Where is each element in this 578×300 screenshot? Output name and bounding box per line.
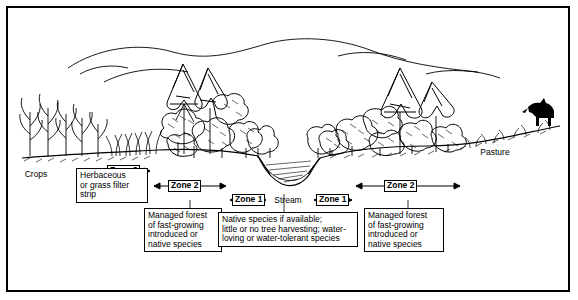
background-hills (68, 39, 500, 82)
callout-zone3-description: Herbaceous or grass filter strip (76, 168, 148, 203)
zone-marker-zone1-right: Zone 1 (316, 194, 349, 206)
callout-zone1-description: Native species if available; little or n… (218, 212, 358, 247)
diagram-frame: Crops Pasture Stream Zone 3 Zone 2 Zone … (6, 6, 570, 292)
callout-zone2-left-description: Managed forest of fast-growing introduce… (144, 208, 222, 252)
diagram-canvas: Crops Pasture Stream Zone 3 Zone 2 Zone … (0, 0, 578, 300)
callout-zone2-right-description: Managed forest of fast-growing introduce… (364, 208, 444, 252)
crop-field (20, 94, 107, 157)
callout-zone1-line3: loving or water-tolerant species (222, 234, 354, 244)
stream-water-hatch (266, 161, 311, 182)
streamside-vegetation-right (307, 124, 340, 158)
horse-silhouette (522, 98, 554, 126)
zone-marker-zone2-left: Zone 2 (168, 180, 201, 192)
label-crops: Crops (14, 170, 58, 180)
callout-zone2-right-line4: native species (368, 240, 440, 250)
left-forest-stand (161, 64, 263, 158)
label-pasture: Pasture (468, 148, 522, 158)
label-stream: Stream (264, 196, 312, 206)
zone-marker-zone2-right: Zone 2 (384, 180, 417, 192)
zone-marker-zone1-left: Zone 1 (232, 194, 265, 206)
right-forest-stand (319, 68, 466, 156)
callout-zone2-left-line4: native species (148, 240, 218, 250)
callout-zone3-line3: strip (80, 190, 144, 200)
